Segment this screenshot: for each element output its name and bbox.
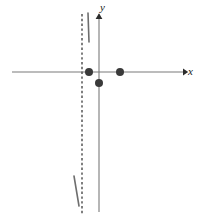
graph-figure: y x bbox=[0, 0, 200, 219]
lower-branch-curve bbox=[74, 176, 79, 206]
upper-branch-curve bbox=[88, 13, 89, 42]
arrow-up-icon bbox=[96, 13, 103, 19]
coordinate-plot bbox=[0, 0, 200, 219]
plot-point bbox=[116, 68, 124, 76]
x-axis-label: x bbox=[188, 66, 193, 77]
plot-point bbox=[95, 79, 103, 87]
plot-point bbox=[85, 68, 93, 76]
y-axis-label: y bbox=[100, 2, 105, 13]
